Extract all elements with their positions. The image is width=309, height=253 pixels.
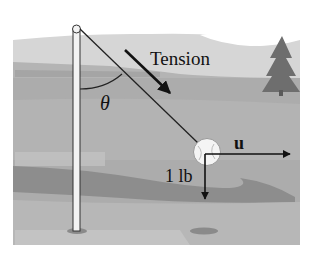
u-label: u: [234, 133, 244, 153]
fence-left: [15, 152, 105, 166]
theta-label: θ: [100, 92, 110, 114]
weight-label: 1 lb: [165, 166, 193, 186]
field-light: [13, 99, 300, 160]
baseball: [194, 139, 221, 166]
pole-knob: [73, 25, 81, 33]
foreground-fence: [15, 230, 190, 245]
tetherball-force-diagram: θ Tension u 1 lb: [0, 0, 309, 253]
pole: [73, 25, 81, 231]
ball-shadow: [190, 228, 218, 235]
tension-label: Tension: [150, 48, 210, 69]
